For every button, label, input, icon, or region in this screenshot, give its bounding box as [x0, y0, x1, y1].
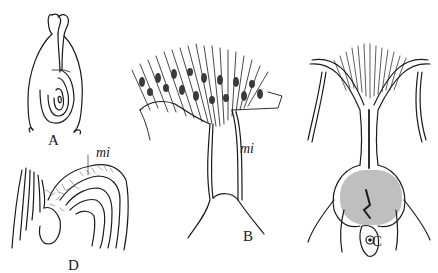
panel-a-drawing	[28, 14, 82, 134]
panel-label-c: C	[372, 234, 382, 249]
annotation-mi-d: mi	[96, 146, 110, 160]
panel-label-d: D	[68, 258, 79, 273]
panel-d-drawing	[12, 155, 128, 250]
panel-label-b: B	[243, 229, 253, 244]
scientific-figure: A mi D mi B C	[0, 0, 438, 273]
panel-c-drawing	[308, 44, 430, 256]
panel-label-a: A	[48, 133, 59, 148]
annotation-mi-b: mi	[240, 142, 254, 156]
panel-b-drawing	[132, 44, 282, 238]
